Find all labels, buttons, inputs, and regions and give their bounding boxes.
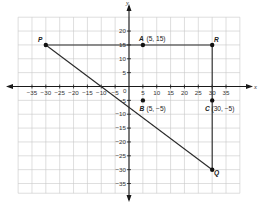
y-tick-label: −25 [116, 152, 127, 159]
label-A-coords: (5, 15) [147, 35, 166, 43]
label-A: A [138, 35, 144, 42]
x-axis-left-arrow-icon [6, 84, 13, 89]
x-tick-label: 20 [181, 89, 188, 96]
label-P: P [38, 36, 43, 43]
x-tick-label: 25 [195, 89, 202, 96]
axes: x y 0 [6, 0, 257, 202]
label-Q: Q [214, 169, 220, 177]
point-C [210, 98, 214, 102]
x-tick-label: 35 [223, 89, 230, 96]
y-tick-label: 5 [123, 69, 127, 76]
y-tick-label: −35 [116, 180, 127, 187]
y-axis-label: y [125, 0, 129, 6]
label-C-coords: (30, −5) [212, 105, 235, 113]
point-P [44, 43, 48, 47]
x-tick-label: −30 [41, 89, 52, 96]
y-axis-down-arrow-icon [127, 195, 132, 202]
x-tick-label: −15 [82, 89, 93, 96]
x-tick-label: −20 [68, 89, 79, 96]
origin-label: 0 [123, 87, 127, 94]
y-tick-label: 20 [119, 27, 126, 34]
x-tick-label: 5 [141, 89, 145, 96]
point-A [141, 43, 145, 47]
label-R: R [214, 36, 219, 43]
label-B: B [140, 105, 145, 112]
y-tick-label: −10 [116, 110, 127, 117]
x-axis-label: x [253, 83, 257, 90]
label-B-coords: (5, −5) [147, 105, 166, 113]
y-tick-label: −20 [116, 138, 127, 145]
x-tick-label: −35 [27, 89, 38, 96]
x-tick-label: −25 [54, 89, 65, 96]
coordinate-plane: x y 0 −35−30−25−20−15−10−55101520253035 … [0, 0, 262, 203]
point-R [210, 43, 214, 47]
x-axis-right-arrow-icon [246, 84, 253, 89]
point-B [141, 98, 145, 102]
label-C: C [205, 105, 210, 112]
y-tick-label: −30 [116, 166, 127, 173]
x-tick-label: 15 [167, 89, 174, 96]
y-tick-label: 10 [119, 55, 126, 62]
y-tick-label: −15 [116, 124, 127, 131]
x-tick-label: 10 [153, 89, 160, 96]
